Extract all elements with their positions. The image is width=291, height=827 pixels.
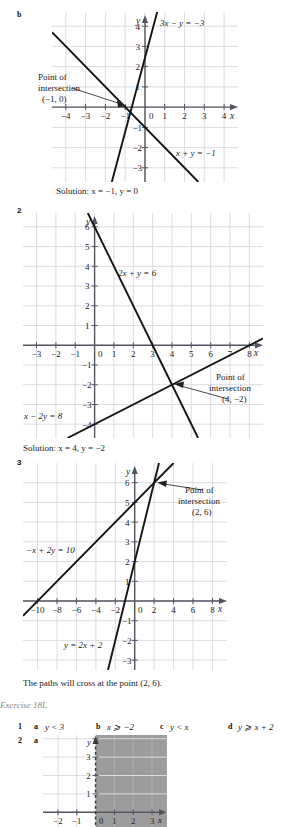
y-axis-label: y [86,737,91,747]
svg-text:8: 8 [210,605,215,615]
svg-text:0: 0 [98,349,103,359]
q2-solution-text: Solution: x = 4, y = −2 [23,443,105,453]
answer-1b-value: x ⩾ −2 [107,722,134,732]
svg-text:−1: −1 [72,816,81,826]
svg-text:5: 5 [125,498,130,508]
svg-text:6: 6 [125,478,130,488]
graph-ex2a: −2 −1 1 2 3 0 3 2 1 x y [43,735,167,827]
question-3-number: 3 [17,458,21,467]
svg-text:−3: −3 [81,111,91,121]
svg-text:−1: −1 [120,111,130,121]
svg-text:−10: −10 [31,605,46,615]
q2-line1-label: 2x + y = 6 [118,268,156,278]
q1b-line2-label: x + y = −1 [176,148,216,158]
svg-text:6: 6 [208,349,213,359]
svg-text:−8: −8 [52,605,62,615]
svg-text:1: 1 [85,321,90,331]
q1b-annotation-line1: Point of [38,72,67,82]
q2-line2-label: x − 2y = 8 [24,411,62,421]
q2-annotation-line1: Point of [216,372,245,382]
svg-text:−2: −2 [101,111,111,121]
svg-text:−3: −3 [132,163,142,173]
svg-text:3: 3 [86,752,90,762]
svg-text:2: 2 [85,301,90,311]
y-axis-label: y [135,16,141,26]
svg-text:7: 7 [228,349,233,359]
svg-text:−6: −6 [72,605,82,615]
svg-text:0: 0 [99,816,103,826]
graph-q2: −3 −2 −1 1 2 3 4 5 6 7 8 0 6 5 4 3 2 1 −… [23,213,263,438]
y-axis-label: y [125,467,131,477]
q2-annotation-line3: (4, −2) [222,394,247,404]
svg-text:3: 3 [202,111,207,121]
question-2-number: 2 [17,206,21,215]
svg-text:2: 2 [131,816,135,826]
q1b-solution-text: Solution: x = −1, y = 0 [56,186,138,196]
q3-annotation-line1: Point of [185,485,214,495]
svg-text:−4: −4 [82,420,92,430]
x-axis-label: x [229,111,235,121]
svg-text:3: 3 [125,537,130,547]
svg-text:1: 1 [112,816,116,826]
svg-text:−4: −4 [91,605,101,615]
exercise-title: Exercise 18L [0,700,47,710]
q3-conclusion-text: The paths will cross at the point (2, 6)… [23,678,162,688]
svg-text:3: 3 [150,816,154,826]
svg-text:3: 3 [85,281,90,291]
answer-1c-letter: c [160,722,164,731]
svg-text:2: 2 [125,557,130,567]
x-axis-label: x [253,348,259,358]
answer-1b-letter: b [96,722,100,731]
q3-annotation-line3: (2, 6) [192,507,212,517]
svg-text:4: 4 [222,111,227,121]
answer-2-number: 2 [18,736,22,745]
svg-text:0: 0 [149,111,154,121]
x-axis-label: x [217,604,223,614]
svg-text:1: 1 [136,82,141,92]
answer-1-number: 1 [18,722,22,731]
shaded-region-x-ge-0 [96,735,167,827]
q3-line2-label: y = 2x + 2 [64,640,102,650]
svg-text:1: 1 [162,111,167,121]
answer-1d-value: y ⩾ x + 2 [238,722,274,732]
svg-text:−2: −2 [51,349,61,359]
svg-text:4: 4 [125,518,130,528]
svg-text:−2: −2 [111,605,121,615]
question-1b-letter: b [17,10,21,19]
svg-text:−2: −2 [53,816,62,826]
svg-text:4: 4 [85,262,90,272]
svg-text:−3: −3 [32,349,42,359]
q3-line1-label: −x + 2y = 10 [26,545,75,555]
answer-1a-letter: a [34,722,38,731]
q1b-annotation-line2: intersection [38,83,80,93]
svg-text:4: 4 [170,349,175,359]
svg-text:1: 1 [112,349,117,359]
svg-text:−3: −3 [82,400,92,410]
answer-1d-letter: d [228,722,232,731]
svg-text:−4: −4 [61,111,71,121]
answer-1a-value: y < 3 [45,722,64,732]
svg-text:2: 2 [131,349,136,359]
svg-text:−3: −3 [122,656,132,666]
svg-text:5: 5 [85,242,90,252]
svg-text:1: 1 [86,789,90,799]
svg-text:3: 3 [136,42,141,52]
svg-text:4: 4 [171,605,176,615]
svg-text:2: 2 [152,605,157,615]
answer-2a-letter: a [34,736,38,745]
svg-text:−1: −1 [122,616,132,626]
q2-annotation-line2: intersection [209,383,251,393]
svg-text:0: 0 [138,605,143,615]
svg-text:2: 2 [86,771,90,781]
svg-text:−2: −2 [82,380,92,390]
svg-text:8: 8 [247,349,252,359]
q1b-annotation-line3: (−1, 0) [42,94,67,104]
svg-text:6: 6 [191,605,196,615]
svg-text:1: 1 [125,577,130,587]
answer-1c-value: y < x [170,722,189,732]
x-axis-label: x [157,815,162,825]
svg-text:−2: −2 [132,143,142,153]
svg-text:−1: −1 [70,349,80,359]
svg-text:5: 5 [189,349,194,359]
svg-text:2: 2 [182,111,187,121]
